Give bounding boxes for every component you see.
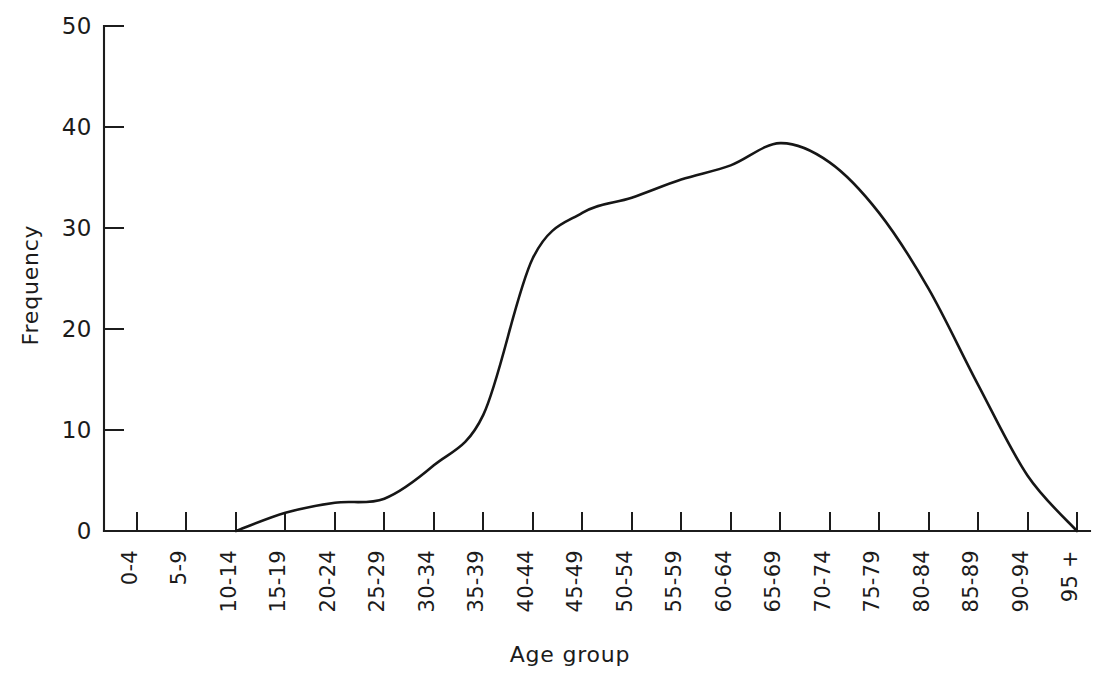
figure-container: 50 40 30 20 10 0 Frequency [0, 0, 1120, 692]
x-tick-label: 80-84 [910, 550, 934, 613]
y-tick-label: 30 [62, 215, 92, 241]
y-tick-label: 20 [62, 316, 92, 342]
frequency-polygon-chart: 50 40 30 20 10 0 Frequency [0, 0, 1120, 692]
x-tick-label: 40-44 [514, 550, 538, 613]
x-tick-label: 35-39 [464, 550, 488, 613]
x-tick-label: 55-59 [662, 550, 686, 613]
x-tick-label: 15-19 [266, 550, 290, 613]
x-tick-label: 70-74 [811, 550, 835, 613]
x-tick-label: 10-14 [217, 550, 241, 613]
x-tick-label: 85-89 [959, 550, 983, 613]
x-tick-label: 90-94 [1009, 550, 1033, 613]
x-tick-label: 30-34 [415, 550, 439, 613]
x-tick-label: 20-24 [316, 550, 340, 613]
x-tick-label: 45-49 [563, 550, 587, 613]
x-tick-label: 50-54 [613, 550, 637, 613]
x-tick-label: 75-79 [860, 550, 884, 613]
x-tick-label: 0-4 [118, 550, 142, 585]
x-tick-label: 60-64 [712, 550, 736, 613]
x-tick-label: 95 + [1058, 550, 1082, 602]
x-tick-label: 65-69 [761, 550, 785, 613]
x-tick-label: 25-29 [365, 550, 389, 613]
x-axis-title: Age group [510, 642, 631, 667]
y-tick-label: 10 [62, 417, 92, 443]
y-tick-label: 40 [62, 114, 92, 140]
y-tick-label: 0 [77, 518, 92, 544]
y-axis-title: Frequency [18, 225, 43, 346]
chart-background [0, 0, 1120, 692]
x-tick-label: 5-9 [167, 550, 191, 585]
y-tick-label: 50 [62, 13, 92, 39]
